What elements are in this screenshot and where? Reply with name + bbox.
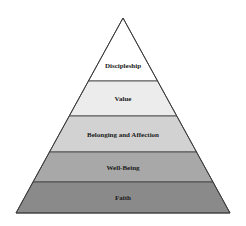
pyramid-layers xyxy=(16,18,230,213)
pyramid-diagram: DiscipleshipValueBelonging and Affection… xyxy=(0,0,246,226)
layer-label: Well-Being xyxy=(106,164,140,172)
layer-label: Discipleship xyxy=(105,62,141,70)
pyramid-layer-discipleship xyxy=(88,18,157,81)
layer-label: Belonging and Affection xyxy=(87,131,159,139)
layer-label: Faith xyxy=(115,194,131,202)
layer-label: Value xyxy=(115,95,132,103)
